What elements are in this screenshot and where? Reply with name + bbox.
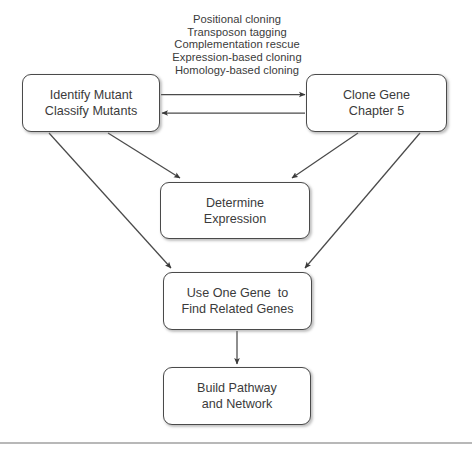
node-clone-gene: Clone Gene Chapter 5 (306, 74, 447, 132)
node-build-pathway: Build Pathway and Network (163, 367, 311, 425)
method-item-expression-based-cloning: Expression-based cloning (137, 51, 337, 64)
node-identify-mutant: Identify Mutant Classify Mutants (22, 74, 160, 132)
method-item-transposon-tagging: Transposon tagging (137, 26, 337, 39)
node-clone-gene-line2: Chapter 5 (349, 103, 404, 119)
footer-divider (0, 442, 472, 444)
diagram-canvas: Positional cloning Transposon tagging Co… (0, 0, 472, 452)
method-item-homology-based-cloning: Homology-based cloning (137, 64, 337, 77)
edge-identify-to-useone (49, 133, 171, 268)
edge-clone-to-determine (292, 133, 358, 178)
node-determine-expression-line1: Determine (206, 195, 264, 211)
edge-identify-to-determine (108, 133, 180, 178)
method-item-complementation-rescue: Complementation rescue (137, 38, 337, 51)
cloning-methods-list: Positional cloning Transposon tagging Co… (137, 13, 337, 77)
node-identify-mutant-line1: Identify Mutant (50, 87, 133, 103)
node-determine-expression: Determine Expression (160, 182, 310, 239)
node-determine-expression-line2: Expression (204, 211, 266, 227)
node-clone-gene-line1: Clone Gene (343, 87, 410, 103)
node-build-pathway-line2: and Network (202, 396, 273, 412)
node-use-one-gene-line1: Use One Gene to (187, 285, 289, 301)
edge-clone-to-useone (305, 133, 420, 268)
node-use-one-gene: Use One Gene to Find Related Genes (163, 272, 312, 330)
node-use-one-gene-line2: Find Related Genes (181, 301, 293, 317)
node-identify-mutant-line2: Classify Mutants (45, 103, 137, 119)
method-item-positional-cloning: Positional cloning (137, 13, 337, 26)
node-build-pathway-line1: Build Pathway (197, 380, 277, 396)
